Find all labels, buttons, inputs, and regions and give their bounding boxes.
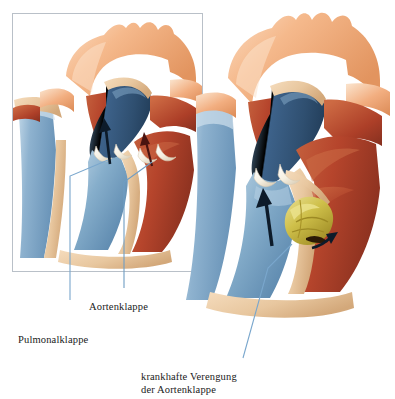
normal-heart-inset-panel: [13, 14, 203, 272]
label-stenose-line1: krankhafte Verengung: [141, 371, 237, 382]
figure-canvas: Aortenklappe Pulmonalklappe krankhafte V…: [0, 0, 395, 399]
label-aortenklappe: Aortenklappe: [89, 301, 148, 312]
heart-valve-figure: Aortenklappe Pulmonalklappe krankhafte V…: [0, 0, 395, 399]
label-stenose-line2: der Aortenklappe: [141, 384, 216, 395]
label-pulmonalklappe: Pulmonalklappe: [18, 334, 89, 345]
